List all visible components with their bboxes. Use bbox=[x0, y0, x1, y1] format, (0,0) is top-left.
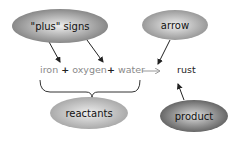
plus-sign-2: + bbox=[107, 64, 115, 75]
reactant-water: water bbox=[118, 64, 145, 75]
reactant-oxygen: oxygen bbox=[72, 64, 107, 75]
arrow-pointer bbox=[158, 40, 170, 64]
arrow-label: arrow bbox=[161, 20, 189, 31]
reactants-label: reactants bbox=[65, 108, 112, 119]
product-cloud: product bbox=[158, 98, 230, 134]
plus-sign-1: + bbox=[61, 64, 69, 75]
plus-signs-cloud: "plus" signs bbox=[10, 6, 110, 46]
reactant-iron: iron bbox=[40, 64, 58, 75]
reactants-cloud: reactants bbox=[48, 95, 130, 131]
product-label: product bbox=[175, 111, 213, 122]
equation: iron + oxygen+ water bbox=[40, 64, 145, 75]
product-rust: rust bbox=[177, 64, 196, 75]
plus-signs-label: "plus" signs bbox=[31, 21, 90, 32]
arrow-cloud: arrow bbox=[140, 8, 210, 42]
